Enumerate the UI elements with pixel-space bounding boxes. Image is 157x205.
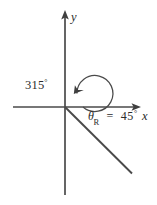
angle-sweep-arc [77, 75, 113, 111]
reference-angle-label: θR = 45° [88, 110, 137, 125]
standard-angle-label: 315° [25, 79, 48, 92]
angle-diagram-figure: 315° θR = 45° x y [0, 0, 157, 205]
angle-diagram-canvas [0, 0, 157, 205]
reference-angle-arc [88, 84, 97, 107]
y-axis-label: y [71, 11, 77, 24]
angle-sweep-arrowhead [70, 83, 84, 97]
x-axis-label: x [142, 110, 148, 123]
